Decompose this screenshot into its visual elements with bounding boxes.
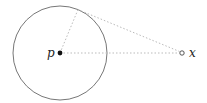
dotted-line-p-to-tangent bbox=[60, 10, 78, 53]
diagram-canvas: p x bbox=[0, 0, 207, 103]
dotted-line-tangent-to-x bbox=[78, 10, 180, 52]
label-p: p bbox=[47, 46, 55, 60]
center-point-dot bbox=[58, 51, 63, 56]
external-point-open-dot bbox=[180, 51, 184, 55]
label-x: x bbox=[189, 46, 196, 60]
